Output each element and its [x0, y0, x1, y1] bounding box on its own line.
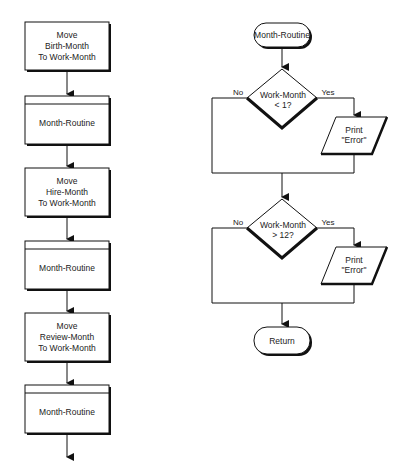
- terminator-return: Return: [254, 327, 312, 356]
- output-print-error-1: Print "Error": [321, 117, 387, 154]
- output-label: "Error": [342, 135, 367, 145]
- process-box-line: Move: [57, 321, 78, 331]
- process-box-birth-month: Move Birth-Month To Work-Month: [25, 22, 111, 72]
- process-box-line: Move: [57, 30, 78, 40]
- predefined-process-label: Month-Routine: [39, 118, 95, 128]
- decision-diamond-1: Work-Month < 1?: [247, 69, 317, 128]
- decision-label: > 12?: [272, 230, 294, 240]
- predefined-process-label: Month-Routine: [39, 407, 95, 417]
- terminator-label: Return: [269, 336, 295, 346]
- output-label: "Error": [342, 265, 367, 275]
- process-box-line: Hire-Month: [46, 187, 88, 197]
- connector-yes-branch: [317, 228, 354, 245]
- predefined-process-label: Month-Routine: [39, 263, 95, 273]
- terminator-start: Month-Routine: [254, 23, 312, 49]
- predefined-process-month-routine-2: Month-Routine: [25, 241, 111, 291]
- decision-diamond-2: Work-Month > 12?: [247, 199, 317, 258]
- flowchart-canvas: Move Birth-Month To Work-Month Month-Rou…: [0, 0, 415, 464]
- connector-merge: [282, 284, 354, 303]
- output-label: Print: [345, 125, 363, 135]
- branch-label-yes: Yes: [321, 218, 334, 227]
- process-box-review-month: Move Review-Month To Work-Month: [25, 313, 111, 363]
- decision-label: Work-Month: [260, 90, 306, 100]
- process-box-hire-month: Move Hire-Month To Work-Month: [25, 168, 111, 218]
- process-box-line: Move: [57, 176, 78, 186]
- predefined-process-month-routine-1: Month-Routine: [25, 96, 111, 146]
- branch-label-no: No: [233, 88, 244, 97]
- decision-label: < 1?: [275, 100, 292, 110]
- left-flowchart: Move Birth-Month To Work-Month Month-Rou…: [25, 22, 111, 457]
- terminator-label: Month-Routine: [254, 30, 310, 40]
- connector-merge: [282, 154, 354, 173]
- process-box-line: To Work-Month: [38, 52, 96, 62]
- connector-yes-branch: [317, 98, 354, 115]
- process-box-line: To Work-Month: [38, 198, 96, 208]
- decision-label: Work-Month: [260, 220, 306, 230]
- branch-label-no: No: [233, 218, 244, 227]
- process-box-line: Review-Month: [40, 332, 95, 342]
- process-box-line: To Work-Month: [38, 343, 96, 353]
- process-box-line: Birth-Month: [45, 41, 89, 51]
- output-label: Print: [345, 255, 363, 265]
- output-print-error-2: Print "Error": [321, 247, 387, 284]
- predefined-process-month-routine-3: Month-Routine: [25, 385, 111, 435]
- right-flowchart: Month-Routine Work-Month < 1? No Yes Pri…: [212, 23, 387, 356]
- branch-label-yes: Yes: [321, 88, 334, 97]
